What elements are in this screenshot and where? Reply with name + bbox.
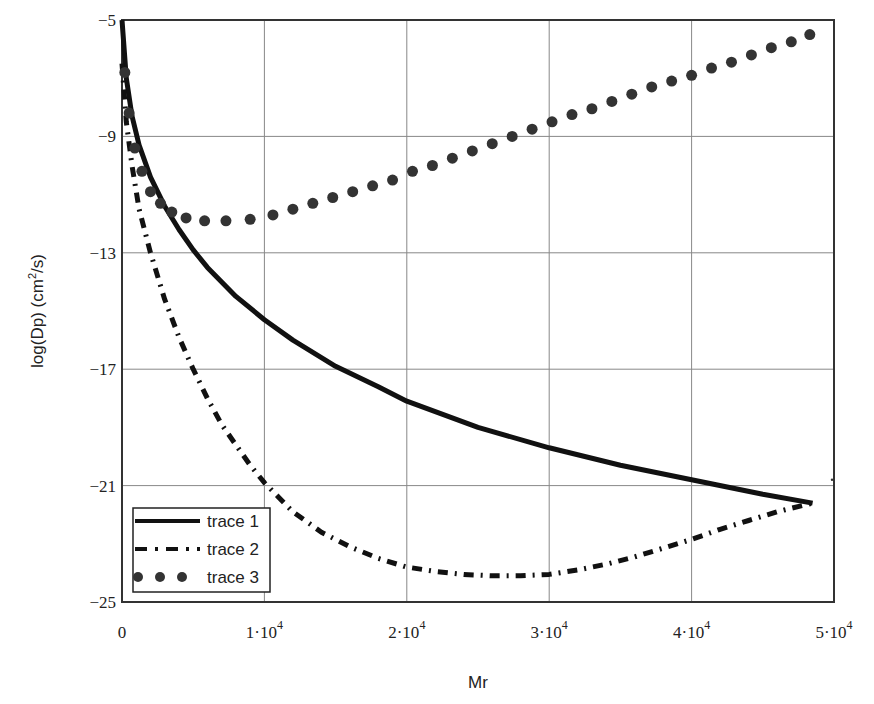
series-line xyxy=(122,20,813,503)
x-tick-label: 2·104 xyxy=(388,618,425,642)
data-point xyxy=(786,36,797,47)
data-point xyxy=(267,209,278,220)
x-axis-title: Mr xyxy=(468,673,488,692)
data-point xyxy=(547,116,558,127)
dot-swatch-icon xyxy=(133,572,143,582)
data-point xyxy=(136,166,147,177)
dot-swatch-icon xyxy=(155,572,165,582)
data-point xyxy=(686,70,697,81)
data-point xyxy=(327,192,338,203)
chart: 01·1042·1043·1044·1045·104 −5−9−13−17−21… xyxy=(0,0,874,704)
data-point xyxy=(347,186,358,197)
data-point xyxy=(746,49,757,60)
y-axis-title-tail: /s) xyxy=(28,254,47,273)
y-tick-label: −13 xyxy=(89,244,116,263)
data-point xyxy=(804,29,815,40)
x-tick-label: 1·104 xyxy=(246,618,283,642)
data-point xyxy=(155,198,166,209)
data-point xyxy=(427,160,438,171)
data-point xyxy=(199,215,210,226)
y-tick-label: −25 xyxy=(89,593,116,612)
series-trace-3 xyxy=(119,29,815,226)
data-point xyxy=(527,124,538,135)
data-point xyxy=(646,81,657,92)
series-line xyxy=(122,64,813,576)
data-point xyxy=(166,207,177,218)
data-point xyxy=(706,63,717,74)
data-point xyxy=(307,198,318,209)
legend: trace 1 trace 2 trace 3 xyxy=(133,508,270,592)
y-tick-label: −17 xyxy=(89,360,116,379)
data-point xyxy=(726,57,737,68)
series-trace-1 xyxy=(122,20,813,503)
data-point xyxy=(467,145,478,156)
data-point xyxy=(586,103,597,114)
legend-label: trace 2 xyxy=(207,540,259,559)
data-point xyxy=(145,186,156,197)
data-point xyxy=(666,76,677,87)
data-point xyxy=(181,212,192,223)
series-layer xyxy=(119,20,833,576)
x-tick-label: 4·104 xyxy=(673,618,710,642)
data-point xyxy=(507,131,518,142)
stray-mark xyxy=(831,479,833,481)
data-point xyxy=(129,143,140,154)
legend-label: trace 3 xyxy=(207,568,259,587)
data-point xyxy=(566,109,577,120)
x-axis-ticks: 01·1042·1043·1044·1045·104 xyxy=(118,618,853,642)
y-axis-title: log(Dp) (cm2/s) xyxy=(26,254,47,368)
data-point xyxy=(487,138,498,149)
data-point xyxy=(407,166,418,177)
y-tick-label: −9 xyxy=(98,127,116,146)
data-point xyxy=(220,215,231,226)
y-tick-label: −21 xyxy=(89,477,116,496)
y-tick-label: −5 xyxy=(98,11,116,30)
legend-label: trace 1 xyxy=(207,512,259,531)
data-point xyxy=(124,108,135,119)
data-point xyxy=(626,89,637,100)
data-point xyxy=(245,214,256,225)
data-point xyxy=(287,204,298,215)
data-point xyxy=(606,96,617,107)
data-point xyxy=(387,175,398,186)
dot-swatch-icon xyxy=(177,572,187,582)
data-point xyxy=(367,180,378,191)
y-axis-title-main: log(Dp) (cm xyxy=(28,279,47,368)
series-trace-2 xyxy=(122,64,813,576)
x-tick-label: 5·104 xyxy=(815,618,852,642)
data-point xyxy=(447,153,458,164)
data-point xyxy=(119,67,130,78)
x-tick-label: 0 xyxy=(118,623,127,642)
y-axis-ticks: −5−9−13−17−21−25 xyxy=(89,11,116,612)
data-point xyxy=(766,42,777,53)
x-tick-label: 3·104 xyxy=(531,618,568,642)
